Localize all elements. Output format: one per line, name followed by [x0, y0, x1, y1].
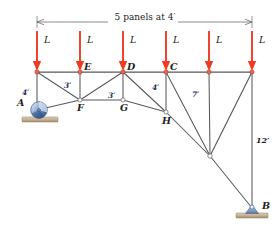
member-H-apex — [166, 112, 210, 156]
joint-C — [164, 70, 168, 74]
joint-label-B: B — [261, 200, 270, 211]
load-arrow-3 — [119, 31, 127, 71]
joint-label-H: H — [161, 115, 172, 126]
joint-label-C: C — [170, 61, 178, 72]
dim-label-A-topleft: 4′ — [22, 88, 29, 97]
load-label-6: L — [258, 34, 265, 45]
joint-H — [164, 110, 168, 114]
dim-label-D-G: 3′ — [108, 91, 115, 100]
member-topleft-F — [37, 72, 80, 100]
truss-figure: 5 panels at 4′ L L L L L L E D C A F G H… — [0, 0, 280, 230]
load-arrows — [33, 31, 256, 71]
span-dimension-label: 5 panels at 4′ — [115, 12, 176, 22]
load-arrow-4 — [162, 31, 170, 71]
load-label-1: L — [43, 34, 50, 45]
member-topfive-apex — [209, 72, 210, 156]
joint-top-right — [250, 70, 254, 74]
joint-label-E: E — [83, 61, 92, 72]
member-C-apex — [166, 72, 210, 156]
joint-label-D: D — [126, 61, 136, 72]
truss-members — [37, 72, 252, 208]
joint-label-F: F — [76, 102, 85, 113]
joint-top-five — [207, 70, 211, 74]
dim-label-right-vertical: 12′ — [256, 135, 270, 145]
member-F-D — [80, 72, 123, 100]
joint-D — [121, 70, 125, 74]
truss-svg: 5 panels at 4′ L L L L L L E D C A F G H… — [0, 0, 280, 230]
joint-label-G: G — [120, 102, 128, 113]
joint-E — [78, 70, 82, 74]
joint-apex — [208, 154, 212, 158]
load-label-2: L — [86, 34, 93, 45]
load-label-5: L — [215, 34, 222, 45]
dim-label-E-F: 3′ — [64, 81, 71, 90]
member-apex-B — [210, 156, 252, 208]
dim-label-C-H: 4′ — [152, 83, 159, 92]
load-arrow-5 — [205, 31, 213, 71]
load-arrow-1 — [33, 31, 41, 71]
load-label-3: L — [129, 34, 136, 45]
joint-top-left — [35, 70, 39, 74]
load-label-4: L — [172, 34, 179, 45]
roller-support-A — [22, 102, 58, 122]
member-topright-apex — [210, 72, 252, 156]
dim-label-panel-five: 7′ — [192, 90, 199, 99]
joint-label-A: A — [16, 97, 24, 108]
load-arrow-6 — [248, 31, 256, 71]
load-arrow-2 — [76, 31, 84, 71]
